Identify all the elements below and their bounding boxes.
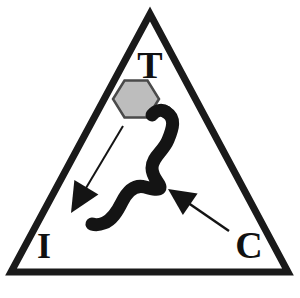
s-curve-top-hook bbox=[152, 110, 166, 115]
vertex-label-t: T bbox=[137, 44, 162, 86]
vertex-label-i: I bbox=[37, 226, 51, 266]
triangle-diagram-svg: T I C bbox=[0, 0, 300, 298]
vertex-label-c: C bbox=[235, 224, 262, 266]
diagram-canvas: T I C bbox=[0, 0, 300, 298]
